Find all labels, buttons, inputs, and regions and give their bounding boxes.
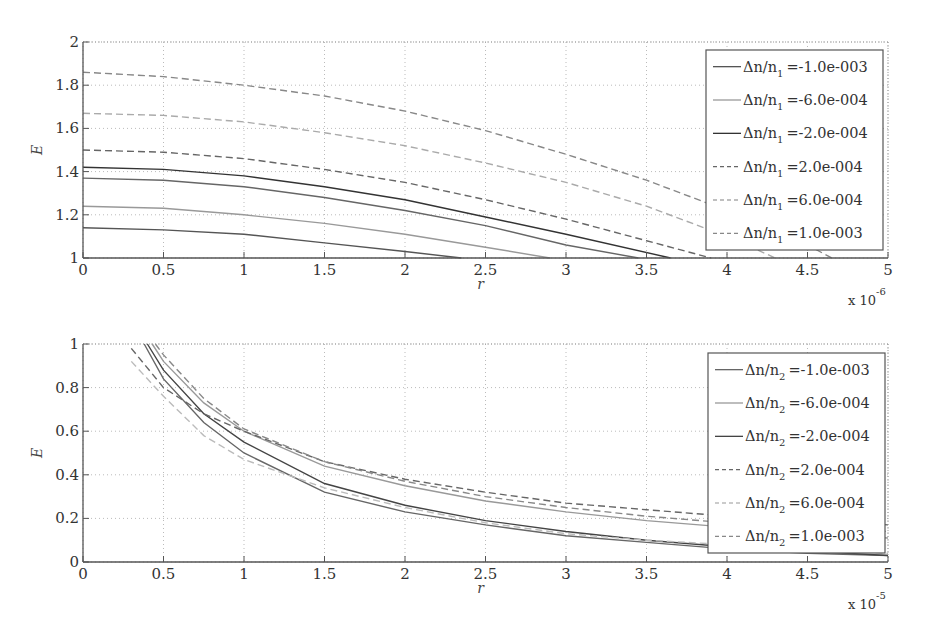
y-tick-label: 0 <box>69 553 79 571</box>
bottom-chart-canvas: 00.511.522.533.544.5500.20.40.60.81rEx 1… <box>0 0 930 639</box>
x-tick-label: 1.5 <box>313 565 337 583</box>
x-multiplier-label: x 10-5 <box>848 590 886 612</box>
x-tick-label: 3 <box>561 565 571 583</box>
x-tick-label: 0.5 <box>152 565 176 583</box>
x-tick-label: 0 <box>78 565 88 583</box>
x-tick-label: 1 <box>239 565 249 583</box>
x-tick-label: 4 <box>722 565 732 583</box>
x-tick-label: 3.5 <box>635 565 659 583</box>
y-tick-label: 0.4 <box>55 466 79 484</box>
x-tick-label: 2 <box>400 565 410 583</box>
x-tick-label: 4.5 <box>796 565 820 583</box>
y-tick-label: 0.8 <box>55 379 79 397</box>
legend-box <box>708 353 885 553</box>
y-axis-label: E <box>29 448 45 459</box>
y-tick-label: 1 <box>69 335 79 353</box>
legend: Δn/n2=-1.0e-003Δn/n2=-6.0e-004Δn/n2=-2.0… <box>708 353 885 553</box>
x-tick-label: 5 <box>883 565 893 583</box>
y-tick-label: 0.2 <box>55 509 79 527</box>
y-tick-label: 0.6 <box>55 422 79 440</box>
